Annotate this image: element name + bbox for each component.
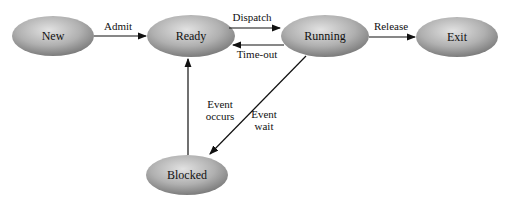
label-event-wait-1: Event [251,108,277,120]
state-ready: Ready [147,15,235,57]
state-diagram: New Ready Running Exit Blocked Admit Dis… [0,0,511,206]
state-running: Running [281,15,369,57]
state-blocked-label: Blocked [167,168,207,182]
label-admit: Admit [104,20,132,32]
state-blocked: Blocked [146,155,228,195]
state-running-label: Running [304,29,345,43]
label-dispatch: Dispatch [232,11,272,23]
label-event-occurs-2: occurs [206,110,235,122]
label-release: Release [374,20,408,32]
state-ready-label: Ready [176,29,207,43]
state-exit-label: Exit [447,30,468,44]
label-timeout: Time-out [237,48,278,60]
label-event-occurs-1: Event [207,98,233,110]
state-new-label: New [42,29,65,43]
state-new: New [12,16,94,56]
label-event-wait-2: wait [255,120,274,132]
state-exit: Exit [416,17,498,57]
